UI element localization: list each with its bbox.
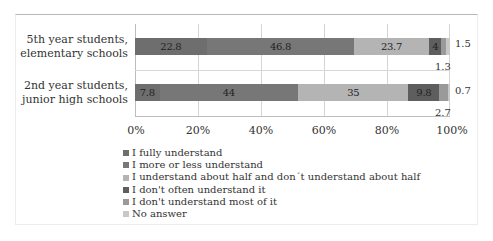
legend-label: I understand about half and don´t unders… — [132, 171, 420, 183]
legend-swatch — [123, 150, 129, 156]
data-label: 9.8 — [416, 87, 431, 98]
data-label: 22.8 — [160, 41, 181, 52]
x-tick-100: 100% — [436, 124, 467, 137]
x-tick-80: 80% — [375, 124, 399, 137]
legend-swatch — [123, 211, 129, 217]
outside-label-dont-understand-junior: 2.7 — [435, 107, 451, 118]
data-label: 23.7 — [381, 41, 402, 52]
outside-label-dont-understand-elementary: 1.3 — [435, 61, 451, 72]
data-label: 35 — [347, 87, 359, 98]
legend-item-no-answer: No answer — [123, 208, 420, 220]
segment-no-answer — [448, 84, 450, 101]
outside-label-no-answer-elementary: 1.5 — [455, 38, 471, 49]
legend-item-about-half: I understand about half and don´t unders… — [123, 171, 420, 183]
category-label-line: 5th year students, — [20, 33, 128, 47]
category-label-line: elementary schools — [20, 47, 128, 61]
legend-swatch — [123, 175, 129, 181]
segment-about-half: 35 — [298, 84, 408, 101]
category-separator — [135, 70, 450, 71]
segment-no-answer — [446, 38, 450, 55]
bar-junior-high: 7.8 44 35 9.8 — [135, 84, 450, 101]
segment-dont-often: 9.8 — [408, 84, 439, 101]
legend-swatch — [123, 199, 129, 205]
category-label-elementary: 5th year students, elementary schools — [20, 33, 128, 61]
segment-dont-understand-most — [439, 84, 448, 101]
legend-swatch — [123, 187, 129, 193]
data-label: 44 — [223, 87, 235, 98]
x-tick-40: 40% — [249, 124, 273, 137]
legend-label: I more or less understand — [132, 159, 263, 171]
data-label: 4 — [432, 41, 438, 52]
segment-more-or-less: 46.8 — [207, 38, 354, 55]
legend-item-dont-often: I don't often understand it — [123, 184, 420, 196]
segment-about-half: 23.7 — [354, 38, 429, 55]
segment-dont-often: 4 — [429, 38, 442, 55]
legend-label: I fully understand — [132, 147, 222, 159]
legend-label: No answer — [132, 208, 187, 220]
plot-area: 22.8 46.8 23.7 4 7.8 44 35 9.8 — [135, 24, 450, 117]
legend-item-more-or-less: I more or less understand — [123, 159, 420, 171]
x-tick-0: 0% — [127, 124, 144, 137]
segment-more-or-less: 44 — [160, 84, 299, 101]
x-tick-20: 20% — [186, 124, 210, 137]
x-axis-line — [135, 116, 450, 117]
legend-label: I don't often understand it — [132, 184, 266, 196]
outside-label-no-answer-junior: 0.7 — [455, 85, 471, 96]
legend-item-dont-understand-most: I don't understand most of it — [123, 196, 420, 208]
legend: I fully understand I more or less unders… — [123, 147, 420, 220]
legend-item-fully: I fully understand — [123, 147, 420, 159]
bar-elementary: 22.8 46.8 23.7 4 — [135, 38, 450, 55]
category-label-line: junior high schools — [22, 93, 128, 107]
legend-label: I don't understand most of it — [132, 196, 277, 208]
legend-swatch — [123, 162, 129, 168]
x-tick-60: 60% — [312, 124, 336, 137]
category-label-junior-high: 2nd year students, junior high schools — [22, 79, 128, 107]
data-label: 46.8 — [270, 41, 291, 52]
segment-fully-understand: 7.8 — [135, 84, 160, 101]
category-label-line: 2nd year students, — [22, 79, 128, 93]
data-label: 7.8 — [140, 87, 155, 98]
segment-fully-understand: 22.8 — [135, 38, 207, 55]
